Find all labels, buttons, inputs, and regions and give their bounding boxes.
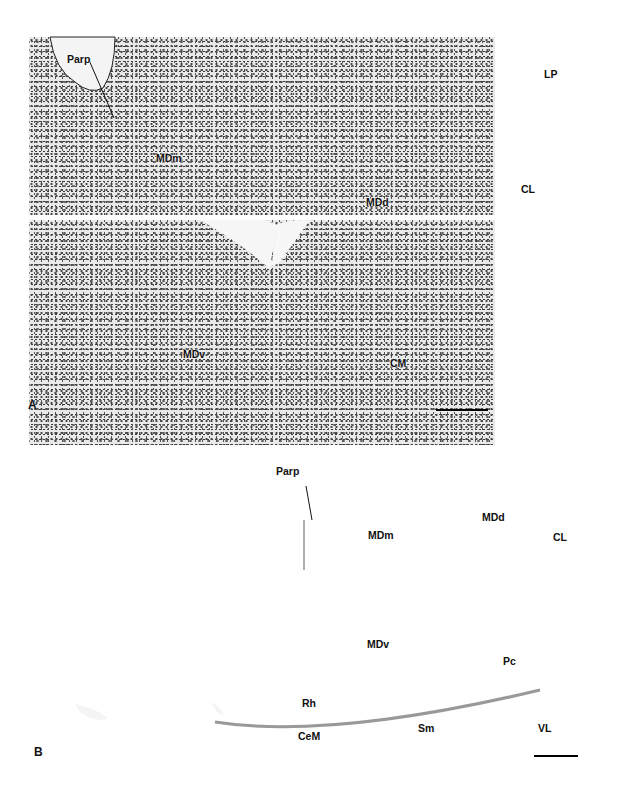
label-mdd-b: MDd — [482, 511, 505, 523]
scale-bar-a — [436, 409, 488, 411]
label-cl-b: CL — [553, 531, 567, 543]
label-mdv-a: MDv — [183, 348, 205, 360]
label-lp-a: LP — [544, 68, 557, 80]
label-cm-a: CM — [390, 357, 406, 369]
label-parp-a: Parp — [67, 53, 90, 65]
label-vl-b: VL — [538, 722, 551, 734]
parp-leader-b — [306, 486, 312, 520]
label-mdv-b: MDv — [367, 638, 389, 650]
label-sm-b: Sm — [418, 722, 434, 734]
anatomy-overlay — [0, 0, 629, 802]
label-parp-b: Parp — [276, 465, 299, 477]
label-cem-b: CeM — [298, 730, 320, 742]
panel-label-b: B — [34, 745, 43, 759]
label-mdm-a: MDm — [156, 152, 182, 164]
scale-bar-b — [534, 755, 578, 757]
label-rh-b: Rh — [302, 697, 316, 709]
label-cl-a: CL — [521, 183, 535, 195]
panel-label-a: A — [28, 398, 37, 412]
label-mdd-a: MDd — [366, 196, 389, 208]
label-mdm-b: MDm — [368, 529, 394, 541]
vessel — [75, 704, 108, 720]
label-pc-b: Pc — [503, 655, 516, 667]
